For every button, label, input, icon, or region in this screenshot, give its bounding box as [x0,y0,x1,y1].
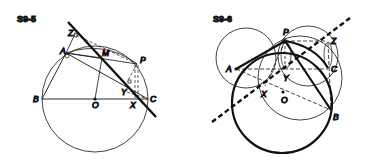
label-o: O [92,100,99,110]
label-p: P [140,55,146,65]
label-c: C [331,64,338,74]
label-b: B [333,112,339,122]
aux-circle-ap [216,28,276,88]
label-b: B [33,94,39,104]
figure-title: S9-6 [213,14,232,24]
label-y: Y [283,73,290,83]
figure-s9-5: S9-5 Z A M P B O [17,14,157,152]
label-a: A [225,64,232,74]
label-z: Z [67,28,74,38]
point-a [234,67,237,70]
segment-mo [95,58,102,99]
figure-title: S9-5 [17,14,36,24]
right-angle-y [128,80,131,83]
label-y: Y [121,87,128,97]
dashed-zb [328,43,331,110]
segment-ac [66,53,148,99]
label-o: O [281,95,288,105]
label-z: Z [330,36,337,46]
label-a: A [59,46,66,56]
geometry-diagram: S9-5 Z A M P B O [0,0,369,164]
center-dot [281,90,284,93]
dashed-py [127,64,137,82]
segment-ba [42,53,66,99]
label-p: P [283,27,289,37]
label-x: X [129,100,136,110]
simson-line [68,22,156,117]
figure-s9-6: S9-6 P Z A C Y X O B [212,14,350,153]
point-p [283,39,287,43]
label-m: M [102,48,110,58]
label-x: X [260,89,267,99]
label-c: C [150,94,157,104]
